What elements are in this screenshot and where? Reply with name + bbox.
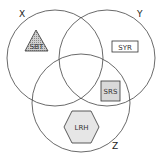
circle-x: [7, 10, 103, 106]
item-sbt: SBT: [25, 30, 48, 51]
item-label-srs: SRS: [104, 88, 118, 96]
set-label-x: X: [19, 9, 25, 19]
item-syr: SYR: [112, 41, 138, 52]
item-label-sbt: SBT: [30, 43, 44, 51]
item-lrh: LRH: [64, 111, 99, 143]
item-srs: SRS: [101, 81, 120, 101]
item-label-lrh: LRH: [74, 124, 88, 132]
venn-diagram: X Y Z SBT SYR SRS LRH: [0, 0, 164, 160]
set-label-z: Z: [112, 141, 118, 151]
item-label-syr: SYR: [118, 44, 132, 52]
set-label-y: Y: [136, 9, 143, 19]
